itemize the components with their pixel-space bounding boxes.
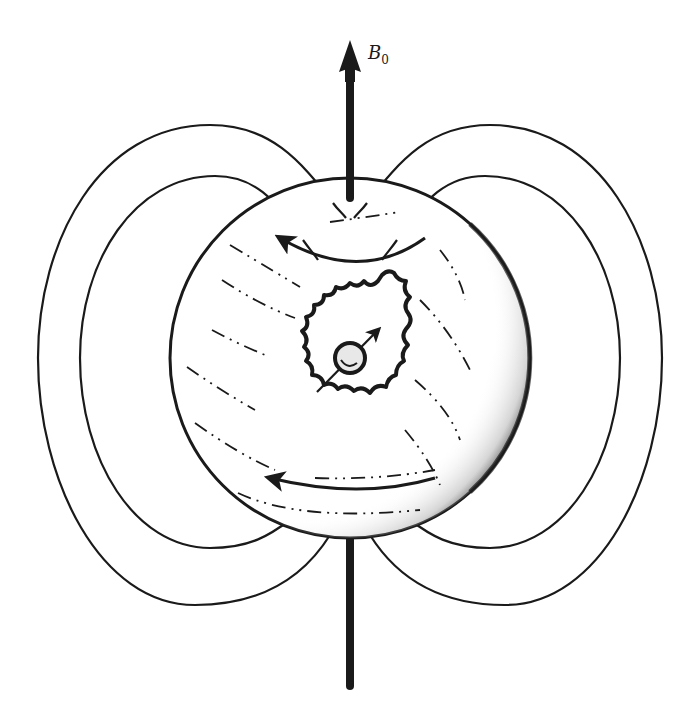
dipole-field-diagram (0, 0, 698, 713)
field-symbol: B (368, 42, 381, 63)
nucleus (335, 343, 365, 373)
field-subscript: 0 (381, 53, 389, 67)
field-axis-arrow (339, 40, 361, 198)
field-label-b0: B0 (368, 42, 389, 67)
